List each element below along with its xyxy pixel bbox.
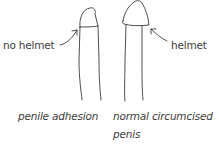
- arrow-icon: [60, 30, 77, 45]
- normal-circumcised-caption: normal circumcised: [113, 109, 213, 124]
- penile-adhesion-figure: [79, 8, 101, 100]
- circumcised-figure: [122, 1, 149, 101]
- helmet-label: helmet: [171, 39, 207, 51]
- penis-caption: penis: [113, 127, 140, 142]
- diagram-drawing: [0, 0, 219, 149]
- arrow-icon: [151, 29, 167, 41]
- penile-adhesion-caption: penile adhesion: [18, 109, 98, 124]
- no-helmet-label: no helmet: [3, 39, 54, 51]
